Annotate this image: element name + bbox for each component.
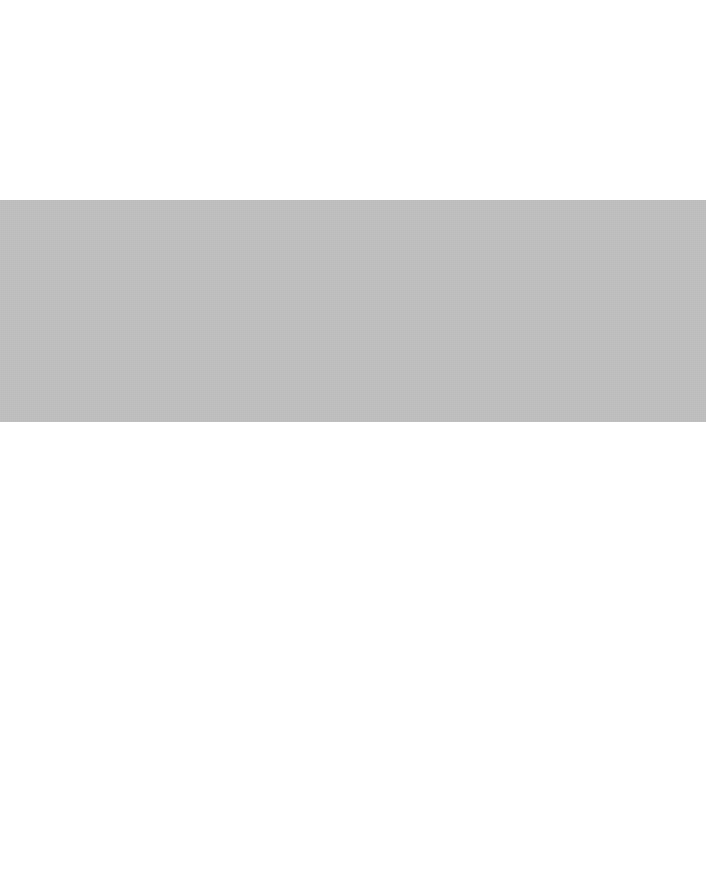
- empty-region-below-band: [0, 422, 706, 877]
- screen-canvas: [0, 0, 706, 877]
- empty-region-above-band: [0, 0, 706, 200]
- gray-placeholder-band: [0, 200, 706, 422]
- gray-placeholder-band-label: [0, 200, 706, 422]
